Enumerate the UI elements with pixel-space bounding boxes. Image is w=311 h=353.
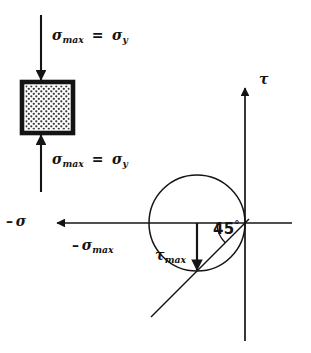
mohr-circle-figure: [0, 0, 311, 353]
label-tau-axis: τ: [259, 72, 269, 86]
label-negative-sigma-max: – σmax: [72, 238, 114, 254]
label-sigma-max-bottom: σmax = σy: [52, 152, 128, 168]
stippled-square-fill: [26, 86, 70, 130]
label-sigma-max-top: σmax = σy: [52, 28, 128, 44]
axes-group: [57, 88, 292, 341]
label-tau-max: τmax: [155, 248, 186, 264]
label-angle-45: 45°: [213, 219, 240, 237]
label-negative-sigma-axis: – σ: [6, 214, 26, 228]
